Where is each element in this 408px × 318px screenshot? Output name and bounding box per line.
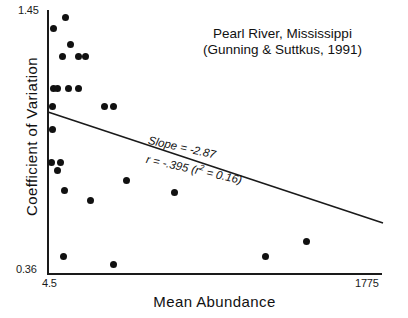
y-axis-label: Coefficient of Variation: [23, 32, 40, 242]
plot-area: [47, 10, 382, 275]
data-point: [82, 53, 89, 60]
x-axis-tick-max: 1775: [355, 277, 379, 289]
y-axis-tick-min: 0.36: [16, 263, 37, 275]
data-point: [171, 189, 178, 196]
data-point: [49, 126, 56, 133]
data-point: [303, 238, 310, 245]
x-axis-tick-min: 4.5: [42, 277, 57, 289]
data-point: [61, 187, 68, 194]
data-point: [50, 25, 57, 32]
data-point: [57, 159, 64, 166]
data-point: [75, 85, 82, 92]
data-point: [62, 14, 69, 21]
data-point: [65, 85, 72, 92]
data-point: [49, 103, 56, 110]
data-point: [110, 103, 117, 110]
data-point: [54, 85, 61, 92]
data-point: [101, 103, 108, 110]
y-axis-tick-max: 1.45: [18, 4, 39, 16]
x-axis-label: Mean Abundance: [47, 293, 382, 310]
data-point: [123, 177, 130, 184]
data-point: [75, 53, 82, 60]
data-point: [48, 159, 55, 166]
data-point: [67, 41, 74, 48]
data-point: [262, 253, 269, 260]
data-point: [60, 253, 67, 260]
scatter-plot-figure: Pearl River, Mississippi (Gunning & Sutt…: [0, 0, 408, 318]
data-point: [110, 261, 117, 268]
data-point: [54, 167, 61, 174]
data-point: [59, 53, 66, 60]
data-point: [87, 197, 94, 204]
